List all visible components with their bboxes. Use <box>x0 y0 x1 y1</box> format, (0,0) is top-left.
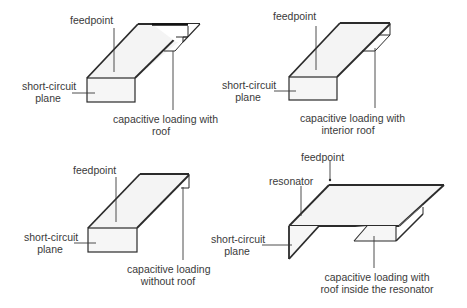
capacitive-loading-label: capacitive loading without roof <box>127 263 209 287</box>
feedpoint-label: feedpoint <box>273 10 316 22</box>
resonator-label: resonator <box>269 175 313 187</box>
loading-label-line1: capacitive loading with <box>300 112 405 124</box>
loading-label-line2: interior roof <box>321 124 374 136</box>
short-circuit-label-line2: plane <box>235 91 261 103</box>
capacitive-loading-label: capacitive loading with roof <box>113 113 209 137</box>
loading-label-line1: capacitive loading with <box>113 113 218 125</box>
short-circuit-label-line1: short-circuit <box>24 231 78 243</box>
feedpoint-dot <box>329 179 331 181</box>
short-circuit-label: short-circuit plane <box>222 79 274 103</box>
panel-top-left <box>72 24 200 110</box>
panel-bottom-left <box>74 174 189 260</box>
loading-label-line1: capacitive loading with <box>324 271 429 283</box>
short-circuit-label-line1: short-circuit <box>211 233 265 245</box>
short-circuit-label-line2: plane <box>35 92 61 104</box>
short-circuit-label: short-circuit plane <box>22 80 74 104</box>
loading-label-line2: without roof <box>141 275 195 287</box>
short-circuit-label: short-circuit plane <box>211 233 263 257</box>
short-circuit-label-line2: plane <box>37 243 63 255</box>
loading-label-line2: roof <box>152 125 170 137</box>
capacitive-loading-label: capacitive loading with roof inside the … <box>292 271 462 295</box>
feedpoint-label: feedpoint <box>301 151 344 163</box>
short-circuit-plane <box>88 228 137 252</box>
short-circuit-plane <box>87 78 135 102</box>
feedpoint-label: feedpoint <box>73 164 116 176</box>
short-circuit-label-line1: short-circuit <box>222 79 276 91</box>
short-circuit-plane <box>289 77 337 100</box>
antenna-diagram-canvas <box>0 0 467 308</box>
short-circuit-label-line1: short-circuit <box>22 80 76 92</box>
panel-top-right <box>274 23 390 108</box>
loading-label-line1: capacitive loading <box>127 263 210 275</box>
short-circuit-label: short-circuit plane <box>24 231 76 255</box>
feedpoint-label: feedpoint <box>70 14 113 26</box>
short-circuit-label-line2: plane <box>224 245 250 257</box>
top-plate <box>88 174 189 228</box>
loading-label-line2: roof inside the resonator <box>320 283 433 295</box>
capacitive-loading-label: capacitive loading with interior roof <box>300 112 396 136</box>
